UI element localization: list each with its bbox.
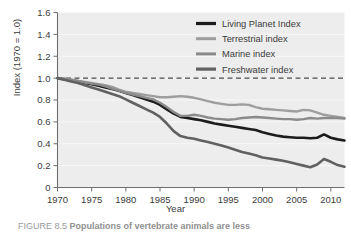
figure-caption-text: Populations of vertebrate animals are le… bbox=[70, 221, 251, 231]
x-axis-title: Year bbox=[0, 203, 351, 214]
legend-label: Marine index bbox=[222, 49, 276, 59]
legend-label: Freshwater index bbox=[222, 65, 294, 75]
y-tick-label: 0.4 bbox=[37, 138, 50, 149]
y-tick-label: 1.0 bbox=[37, 73, 50, 84]
x-axis-ticks: 197019751980198519901995200020052010 bbox=[47, 188, 341, 205]
y-tick-label: 0.6 bbox=[37, 116, 50, 127]
legend-label: Terrestrial index bbox=[222, 34, 288, 44]
y-tick-label: 1.4 bbox=[37, 29, 50, 40]
figure-container: 00.20.40.60.81.01.21.41.6 19701975198019… bbox=[0, 0, 351, 232]
y-tick-label: 0.8 bbox=[37, 94, 50, 105]
legend-label: Living Planet Index bbox=[222, 19, 301, 29]
figure-caption: FIGURE 8.5 Populations of vertebrate ani… bbox=[18, 221, 351, 231]
y-tick-label: 1.2 bbox=[37, 51, 50, 62]
y-tick-label: 0 bbox=[45, 182, 50, 193]
y-axis-title: Index (1970 = 1.0) bbox=[11, 0, 22, 118]
y-tick-label: 1.6 bbox=[37, 7, 50, 18]
y-axis-ticks: 00.20.40.60.81.01.21.41.6 bbox=[37, 7, 57, 193]
figure-caption-prefix: FIGURE 8.5 bbox=[18, 221, 70, 231]
y-tick-label: 0.2 bbox=[37, 160, 50, 171]
line-chart: 00.20.40.60.81.01.21.41.6 19701975198019… bbox=[0, 0, 351, 232]
